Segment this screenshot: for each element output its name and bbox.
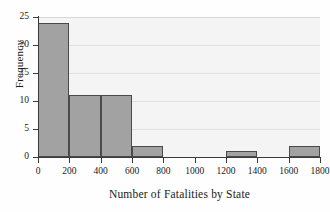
y-axis-line [38, 16, 39, 158]
x-tick-mark [320, 157, 321, 163]
x-tick-mark [38, 157, 39, 163]
x-tick-mark [289, 157, 290, 163]
x-tick-mark [195, 157, 196, 163]
histogram-bar [289, 146, 320, 157]
x-tick-label: 1800 [300, 166, 330, 176]
x-tick-mark [226, 157, 227, 163]
y-tick-label: 5 [3, 124, 29, 134]
y-tick-mark [33, 17, 39, 18]
histogram-bar [69, 95, 100, 157]
x-tick-mark [132, 157, 133, 163]
y-tick-mark [33, 45, 39, 46]
histogram-bar [101, 95, 132, 157]
x-tick-mark [163, 157, 164, 163]
y-tick-mark [33, 73, 39, 74]
x-tick-mark [101, 157, 102, 163]
histogram-figure: 0510152025 02004006008001000120014001600… [0, 0, 330, 212]
x-axis-line [38, 157, 321, 158]
y-tick-mark [33, 129, 39, 130]
histogram-bar [38, 23, 69, 157]
x-tick-mark [257, 157, 258, 163]
y-axis-title: Frequency [13, 9, 25, 119]
x-tick-mark [69, 157, 70, 163]
x-axis-title: Number of Fatalities by State [38, 188, 321, 200]
bar-series [38, 17, 320, 157]
y-tick-label: 0 [3, 152, 29, 162]
histogram-bar [132, 146, 163, 157]
y-tick-mark [33, 101, 39, 102]
plot-area [38, 17, 320, 157]
